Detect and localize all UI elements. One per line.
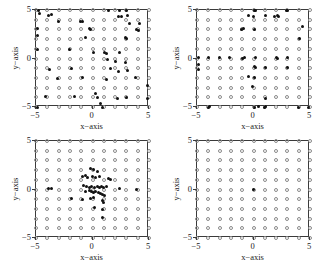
lattice-site-marker (57, 197, 61, 201)
lattice-site-marker (147, 8, 151, 12)
lattice-site-marker (218, 197, 222, 201)
x-tick-mark (35, 237, 36, 240)
lattice-site-marker (285, 158, 289, 162)
particle-marker (84, 190, 87, 193)
scatter-panel-top-right: −50550−5x−axisy−axis (161, 0, 321, 131)
lattice-site-marker (91, 66, 95, 70)
lattice-site-marker (102, 18, 106, 22)
lattice-site-marker (136, 37, 140, 41)
lattice-site-marker (229, 18, 233, 22)
particle-marker (138, 22, 141, 25)
particle-marker (105, 52, 108, 55)
lattice-site-marker (195, 178, 199, 182)
x-tick-mark (196, 106, 197, 109)
lattice-site-marker (252, 168, 256, 172)
lattice-site-marker (206, 76, 210, 80)
lattice-site-marker (274, 18, 278, 22)
lattice-site-marker (102, 27, 106, 31)
lattice-site-marker (274, 236, 278, 240)
lattice-site-marker (113, 158, 117, 162)
lattice-site-marker (285, 86, 289, 90)
particle-marker (84, 36, 87, 39)
y-axis-title: y−axis (10, 166, 20, 212)
lattice-site-marker (229, 226, 233, 230)
lattice-site-marker (91, 37, 95, 41)
lattice-site-marker (240, 18, 244, 22)
lattice-site-marker (79, 188, 83, 192)
particle-marker (137, 29, 140, 32)
lattice-site-marker (229, 37, 233, 41)
particle-marker (38, 12, 41, 15)
lattice-site-marker (124, 57, 128, 61)
lattice-site-marker (297, 168, 301, 172)
lattice-site-marker (124, 197, 128, 201)
y-tick-label: 5 (9, 135, 31, 145)
lattice-site-marker (252, 139, 256, 143)
x-tick-label: 0 (80, 110, 104, 120)
lattice-site-marker (218, 236, 222, 240)
lattice-site-marker (285, 105, 289, 109)
lattice-site-marker (102, 66, 106, 70)
particle-marker (105, 78, 108, 81)
lattice-site-marker (147, 47, 151, 51)
particle-marker (50, 13, 53, 16)
lattice-site-marker (285, 37, 289, 41)
x-tick-mark (92, 237, 93, 240)
lattice-site-marker (113, 105, 117, 109)
lattice-site-marker (124, 168, 128, 172)
lattice-site-marker (274, 226, 278, 230)
plot-frame (35, 140, 148, 237)
y-tick-label: 5 (170, 135, 192, 145)
lattice-site-marker (274, 8, 278, 12)
lattice-site-marker (252, 197, 256, 201)
lattice-site-marker (45, 18, 49, 22)
x-tick-label: −5 (23, 110, 47, 120)
lattice-site-marker (229, 207, 233, 211)
lattice-site-marker (79, 57, 83, 61)
lattice-site-marker (113, 47, 117, 51)
lattice-site-marker (45, 105, 49, 109)
particle-marker (254, 56, 257, 59)
lattice-site-marker (68, 76, 72, 80)
lattice-site-marker (57, 37, 61, 41)
lattice-site-marker (263, 27, 267, 31)
particle-marker (253, 106, 256, 109)
lattice-site-marker (45, 27, 49, 31)
lattice-site-marker (136, 57, 140, 61)
lattice-site-marker (240, 105, 244, 109)
lattice-site-marker (136, 8, 140, 12)
particle-marker (118, 187, 121, 190)
lattice-site-marker (91, 149, 95, 153)
lattice-site-marker (218, 188, 222, 192)
particle-marker (109, 67, 112, 70)
lattice-site-marker (206, 158, 210, 162)
lattice-site-marker (229, 188, 233, 192)
lattice-site-marker (218, 207, 222, 211)
x-tick-label: −5 (23, 241, 47, 251)
lattice-site-marker (91, 8, 95, 12)
lattice-site-marker (147, 178, 151, 182)
lattice-site-marker (113, 76, 117, 80)
lattice-site-marker (263, 217, 267, 221)
lattice-site-marker (124, 158, 128, 162)
lattice-site-marker (297, 139, 301, 143)
lattice-site-marker (68, 95, 72, 99)
lattice-site-marker (218, 8, 222, 12)
particle-marker (36, 27, 39, 30)
lattice-site-marker (45, 47, 49, 51)
lattice-site-marker (252, 18, 256, 22)
particle-marker (73, 95, 76, 98)
lattice-site-marker (195, 217, 199, 221)
scatter-panel-bottom-left: −50550−5x−axisy−axis (0, 131, 160, 262)
particle-marker (264, 14, 267, 17)
lattice-site-marker (79, 217, 83, 221)
lattice-site-marker (45, 139, 49, 143)
lattice-site-marker (79, 168, 83, 172)
lattice-site-marker (136, 149, 140, 153)
lattice-site-marker (263, 168, 267, 172)
particle-marker (36, 34, 39, 37)
lattice-site-marker (45, 158, 49, 162)
lattice-site-marker (308, 207, 312, 211)
lattice-site-marker (252, 207, 256, 211)
lattice-site-marker (206, 95, 210, 99)
